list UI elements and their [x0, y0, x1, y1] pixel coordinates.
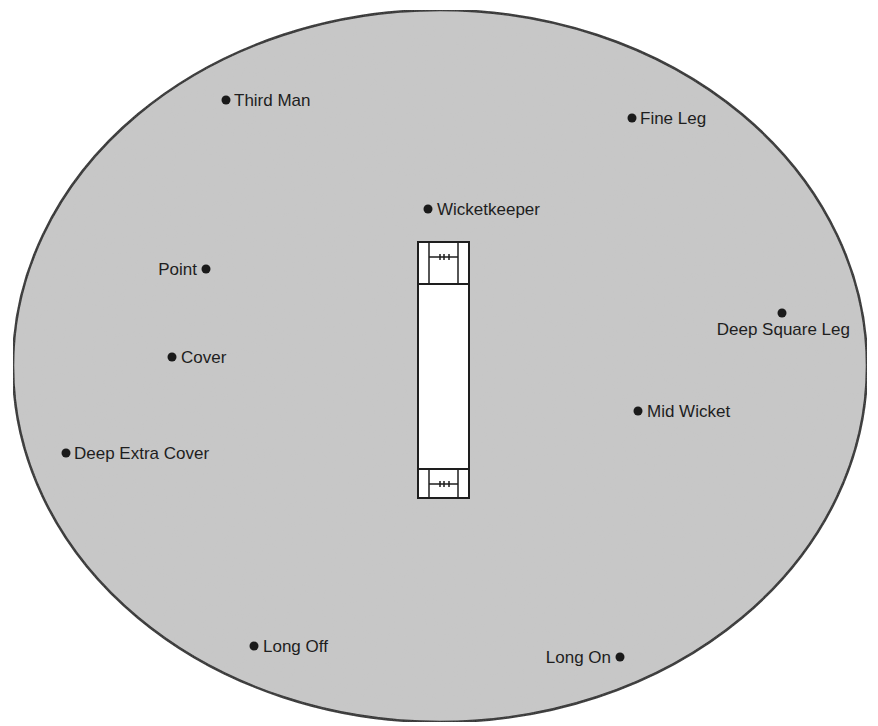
- fielder-marker-icon: [250, 642, 259, 651]
- fielder-marker-icon: [634, 407, 643, 416]
- fielder-wicketkeeper: Wicketkeeper: [424, 200, 541, 219]
- fielder-third-man: Third Man: [222, 91, 311, 110]
- fielder-label: Deep Square Leg: [717, 320, 850, 339]
- fielder-label: Deep Extra Cover: [74, 444, 209, 463]
- fielder-label: Cover: [181, 348, 227, 367]
- fielder-label: Third Man: [234, 91, 311, 110]
- fielder-label: Mid Wicket: [647, 402, 730, 421]
- fielder-marker-icon: [62, 449, 71, 458]
- fielder-label: Point: [158, 260, 197, 279]
- fielder-label: Fine Leg: [640, 109, 706, 128]
- fielder-label: Long Off: [263, 637, 328, 656]
- fielder-marker-icon: [616, 653, 625, 662]
- fielder-deep-extra-cover: Deep Extra Cover: [62, 444, 210, 463]
- pitch: [418, 242, 469, 498]
- fielder-marker-icon: [424, 205, 433, 214]
- cricket-field-diagram: Third Man Fine Leg Wicketkeeper Point De…: [0, 0, 878, 726]
- fielder-label: Long On: [546, 648, 611, 667]
- fielder-marker-icon: [778, 309, 787, 318]
- fielder-fine-leg: Fine Leg: [628, 109, 707, 128]
- fielder-marker-icon: [628, 114, 637, 123]
- fielder-mid-wicket: Mid Wicket: [634, 402, 731, 421]
- fielder-marker-icon: [222, 96, 231, 105]
- fielder-marker-icon: [202, 265, 211, 274]
- fielder-label: Wicketkeeper: [437, 200, 540, 219]
- fielder-marker-icon: [168, 353, 177, 362]
